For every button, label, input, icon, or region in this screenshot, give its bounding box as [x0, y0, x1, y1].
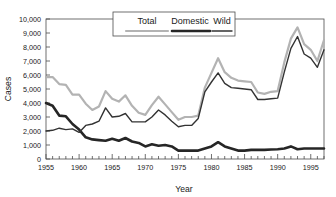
y-tick-label: 6,000 [23, 71, 41, 80]
chart-canvas: 01,0002,0003,0004,0005,0006,0007,0008,00… [0, 0, 336, 197]
rabies-cases-line-chart: 01,0002,0003,0004,0005,0006,0007,0008,00… [0, 0, 336, 197]
y-tick-label: 3,000 [23, 113, 41, 122]
x-tick-label: 1995 [303, 163, 319, 172]
y-tick-label: 10,000 [19, 15, 41, 24]
legend-label-domestic: Domestic [171, 16, 209, 26]
x-tick-label: 1990 [270, 163, 286, 172]
legend-label-total: Total [137, 16, 156, 26]
x-tick-label: 1965 [104, 163, 120, 172]
x-tick-label: 1985 [237, 163, 253, 172]
y-tick-label: 5,000 [23, 85, 41, 94]
legend-label-wild: Wild [213, 16, 231, 26]
x-tick-label: 1955 [38, 163, 54, 172]
y-tick-label: 7,000 [23, 57, 41, 66]
chart-legend: TotalDomesticWild [113, 12, 235, 36]
y-axis-title: Cases [3, 77, 13, 101]
y-tick-label: 1,000 [23, 141, 41, 150]
x-tick-label: 1980 [203, 163, 219, 172]
x-axis-title: Year [175, 184, 193, 194]
y-tick-label: 8,000 [23, 43, 41, 52]
x-tick-label: 1970 [137, 163, 153, 172]
y-axis: 01,0002,0003,0004,0005,0006,0007,0008,00… [19, 15, 50, 164]
x-tick-label: 1960 [71, 163, 87, 172]
x-tick-label: 1975 [170, 163, 186, 172]
y-tick-label: 2,000 [23, 127, 41, 136]
y-tick-label: 4,000 [23, 99, 41, 108]
y-tick-label: 9,000 [23, 29, 41, 38]
